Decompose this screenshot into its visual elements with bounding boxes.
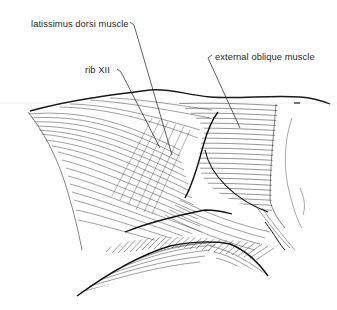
label-external-oblique: external oblique muscle — [215, 51, 315, 62]
leader-external-oblique — [208, 55, 240, 128]
leader-latissimus — [130, 22, 172, 155]
latissimus-hatching — [28, 98, 212, 256]
rib-edge — [185, 112, 218, 198]
label-rib-xii: rib XII — [85, 64, 110, 75]
lower-ridge-line — [77, 242, 268, 296]
lower-flank-hatching — [165, 200, 295, 250]
anatomy-diagram: latissimus dorsi muscle rib XII external… — [0, 0, 337, 310]
leader-rib-xii — [117, 69, 160, 148]
label-latissimus-dorsi: latissimus dorsi muscle — [31, 18, 129, 29]
leader-lines — [117, 22, 240, 155]
muscle-illustration — [0, 0, 337, 310]
